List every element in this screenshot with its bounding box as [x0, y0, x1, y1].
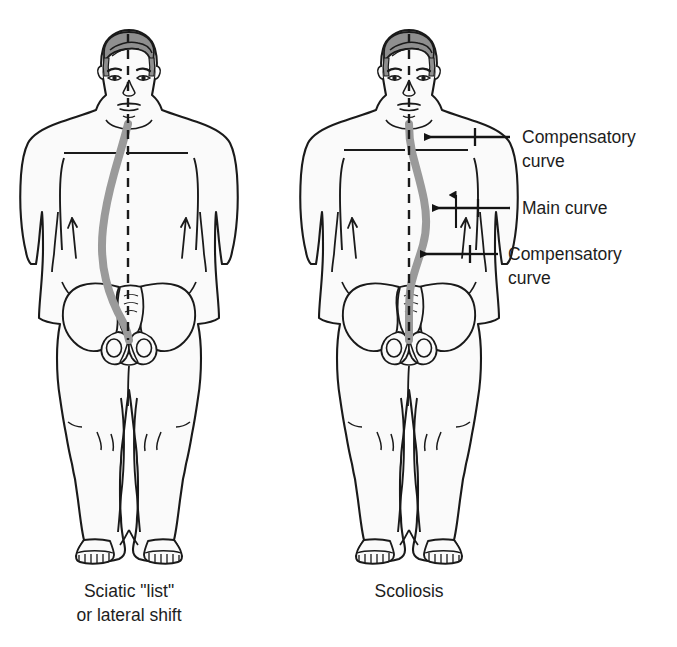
obturator-inner-left-2	[387, 339, 402, 357]
figure-root: Sciatic "list" or lateral shift	[0, 0, 677, 647]
left-caption-line2: or lateral shift	[76, 605, 181, 625]
pupil-right-2	[421, 76, 425, 80]
sideburn-right-2	[429, 58, 435, 76]
annot-upper-line2: curve	[522, 151, 565, 171]
gluteal-cleft	[128, 366, 129, 406]
left-caption-line1: Sciatic "list"	[84, 581, 174, 601]
foot-right-2	[424, 539, 462, 563]
obturator-inner-right	[137, 339, 152, 357]
medical-illustration-svg: Sciatic "list" or lateral shift	[0, 0, 677, 647]
sideburn-left-2	[383, 58, 389, 76]
pupil-left-2	[392, 76, 396, 80]
gluteal-cleft-2	[408, 366, 409, 406]
foot-left	[76, 539, 114, 563]
annot-main-line1: Main curve	[522, 198, 608, 218]
annot-lower-line2: curve	[508, 268, 551, 288]
pupil-left	[112, 76, 116, 80]
sideburn-left	[103, 58, 109, 76]
pupil-right	[141, 76, 145, 80]
right-caption-line1: Scoliosis	[374, 581, 443, 601]
obturator-inner-left	[107, 339, 122, 357]
annot-lower-line1: Compensatory	[508, 244, 622, 264]
foot-right	[144, 539, 182, 563]
foot-left-2	[356, 539, 394, 563]
obturator-inner-right-2	[417, 339, 432, 357]
annot-upper-line1: Compensatory	[522, 127, 636, 147]
sideburn-right	[149, 58, 155, 76]
